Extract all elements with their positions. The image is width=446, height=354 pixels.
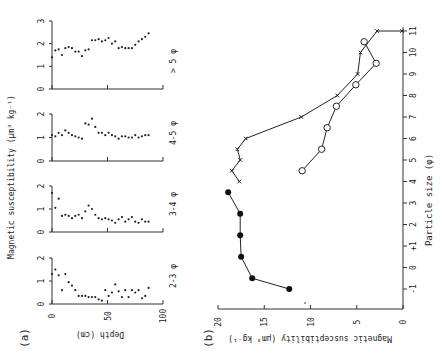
open-circle-marker <box>373 60 379 66</box>
data-point <box>141 135 143 137</box>
data-point <box>78 214 80 216</box>
series-open-circle <box>299 39 379 174</box>
data-point <box>98 38 100 40</box>
panel-a-label: (a) <box>18 328 31 348</box>
data-point <box>111 43 113 45</box>
data-point <box>54 135 56 137</box>
data-point <box>108 37 110 39</box>
data-point <box>94 214 96 216</box>
data-point <box>134 44 136 46</box>
particle-size-tick-label: -1 <box>409 284 418 294</box>
data-point <box>88 296 90 298</box>
data-point <box>137 222 139 224</box>
data-point <box>114 40 116 42</box>
data-point <box>134 221 136 223</box>
value-tick-label: 0 <box>37 158 46 163</box>
value-tick-label: 1 <box>37 64 46 69</box>
data-point <box>74 289 76 291</box>
depth-tick-label: 0 <box>48 313 57 318</box>
series-line <box>232 31 402 182</box>
data-point <box>78 295 80 297</box>
data-point <box>104 39 106 41</box>
data-point <box>144 134 146 136</box>
data-point <box>74 51 76 53</box>
data-point <box>94 39 96 41</box>
data-point <box>84 122 86 124</box>
data-point <box>124 289 126 291</box>
data-point <box>114 283 116 285</box>
depth-tick-label: 50 <box>104 311 113 321</box>
data-point <box>98 298 100 300</box>
data-point <box>147 32 149 34</box>
particle-size-tick-label: 10 <box>409 48 418 58</box>
data-point <box>124 47 126 49</box>
panel-a: 0123> 5 φ0124-5 φ0123-4 φ0122-3 φ050100D… <box>7 18 178 339</box>
data-point <box>81 295 83 297</box>
data-point <box>61 134 63 136</box>
value-tick-label: 1 <box>37 206 46 211</box>
filled-circle-marker <box>237 211 243 217</box>
open-circle-marker <box>361 39 367 45</box>
data-point <box>111 219 113 221</box>
data-point <box>147 134 149 136</box>
data-point <box>104 134 106 136</box>
depth-axis-title: Depth (cm) <box>76 330 124 339</box>
data-point <box>71 47 73 49</box>
data-point <box>54 268 56 270</box>
data-point <box>118 290 120 292</box>
data-point <box>91 208 93 210</box>
subplot-2-3-: 0122-3 φ <box>37 255 178 306</box>
data-point <box>51 134 53 136</box>
data-point <box>127 136 129 138</box>
data-point <box>58 274 60 276</box>
series-x <box>230 29 404 183</box>
data-point <box>61 215 63 217</box>
data-point <box>108 295 110 297</box>
figure: 0123> 5 φ0124-5 φ0123-4 φ0122-3 φ050100D… <box>0 0 446 354</box>
data-point <box>124 221 126 223</box>
data-point <box>78 136 80 138</box>
data-point <box>118 138 120 140</box>
data-point <box>127 296 129 298</box>
data-point <box>114 135 116 137</box>
data-point <box>127 47 129 49</box>
particle-size-axis-title: Particle size (φ) <box>424 154 434 246</box>
data-point <box>111 291 113 293</box>
data-point <box>88 204 90 206</box>
data-point <box>108 132 110 134</box>
data-point <box>118 218 120 220</box>
data-point <box>111 134 113 136</box>
data-point <box>141 218 143 220</box>
data-point <box>114 222 116 224</box>
series-line <box>228 192 289 289</box>
particle-size-tick-label: 2 <box>409 222 418 227</box>
filled-circle-marker <box>249 275 255 281</box>
data-point <box>71 285 73 287</box>
subplot-label: 3-4 φ <box>169 192 178 216</box>
data-point <box>137 136 139 138</box>
scan-artifact-dot <box>304 302 306 304</box>
subplot--5-: 0123> 5 φ <box>37 18 178 91</box>
subplot-label: > 5 φ <box>169 49 178 73</box>
value-tick-label: 2 <box>37 183 46 188</box>
data-point <box>54 49 56 51</box>
data-point <box>61 289 63 291</box>
data-point <box>68 281 70 283</box>
data-point <box>101 218 103 220</box>
filled-circle-marker <box>237 232 243 238</box>
depth-tick-label: 100 <box>159 309 168 324</box>
value-tick-label: 2 <box>37 41 46 46</box>
data-point <box>134 291 136 293</box>
data-point <box>91 118 93 120</box>
data-point <box>58 198 60 200</box>
value-tick-label: 2 <box>37 111 46 116</box>
data-point <box>134 134 136 136</box>
data-point <box>121 135 123 137</box>
value-tick-label: 1 <box>37 135 46 140</box>
susceptibility-tick-label: 15 <box>260 317 269 327</box>
data-point <box>91 39 93 41</box>
data-point <box>137 40 139 42</box>
subplot-4-5-: 0124-5 φ <box>37 111 178 163</box>
open-circle-marker <box>324 125 330 131</box>
susceptibility-tick-label: 0 <box>399 319 408 324</box>
